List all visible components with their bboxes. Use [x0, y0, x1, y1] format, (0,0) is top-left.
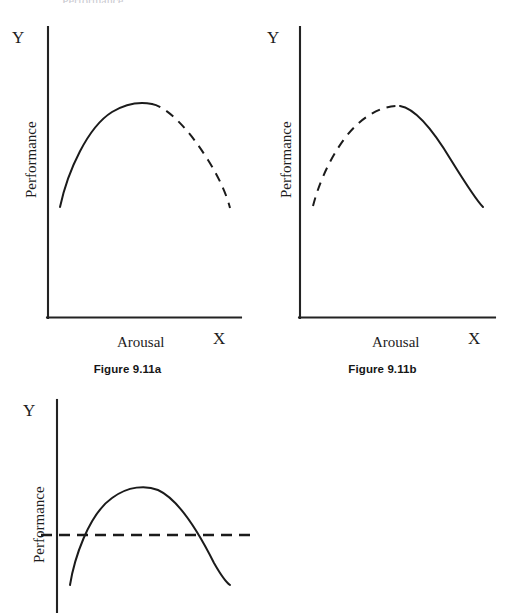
figure-panel-a: Performance Y Performance Arousal X Figu…	[0, 0, 255, 385]
curve-a-solid	[60, 103, 152, 207]
y-axis-label-b: Performance	[279, 121, 294, 198]
figure-caption-a: Figure 9.11a	[0, 363, 255, 375]
x-axis-label-b: Arousal	[372, 335, 420, 350]
figure-panel-b: Y Performance Arousal X Figure 9.11b	[255, 0, 510, 385]
y-axis-letter-c: Y	[23, 402, 35, 419]
y-axis-letter-b: Y	[267, 29, 279, 46]
figure-caption-b: Figure 9.11b	[255, 363, 510, 375]
x-axis-letter-a: X	[213, 330, 225, 347]
cut-off-header-text: Performance	[62, 0, 272, 3]
y-axis-label-a: Performance	[24, 121, 39, 198]
figure-panel-c: Y Performance	[0, 385, 270, 613]
x-axis-label-a: Arousal	[117, 335, 165, 350]
y-axis-letter-a: Y	[12, 29, 24, 46]
y-axis-label-c: Performance	[32, 486, 47, 563]
curve-a-dashed	[152, 104, 230, 208]
x-axis-letter-b: X	[468, 330, 480, 347]
curve-b-dashed	[313, 106, 400, 206]
curve-b-solid	[400, 106, 483, 207]
